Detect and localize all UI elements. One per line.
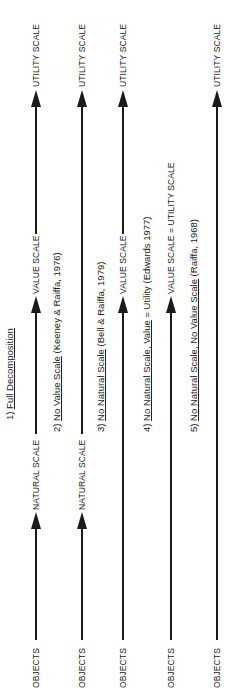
edge-line xyxy=(35,528,37,640)
arrowhead-icon xyxy=(31,296,41,313)
node-value-scale: VALUE SCALE xyxy=(31,235,41,294)
caption-no-value-scale: 2) No Value Scale (Keeney & Raiffa, 1976… xyxy=(51,252,63,432)
caption-title: No Natural Scale, Value xyxy=(141,320,152,421)
caption-number: 4) xyxy=(141,424,152,432)
arrowhead-icon xyxy=(118,90,128,107)
node-objects: OBJECTS xyxy=(77,648,87,688)
edge-line xyxy=(216,106,218,640)
node-utility-scale: UTILITY SCALE xyxy=(31,24,41,87)
caption-number: 3) xyxy=(95,424,106,432)
node-value-utility-scale: VALUE SCALE = UTILITY SCALE xyxy=(166,162,176,294)
edge-line xyxy=(81,528,83,640)
caption-no-natural-scale: 3) No Natural Scale (Bell & Raiffa, 1979… xyxy=(95,262,107,432)
caption-title: No Natural Scale, No Value Scale xyxy=(188,279,199,421)
node-utility-scale: UTILITY SCALE xyxy=(77,24,87,87)
edge-line xyxy=(35,312,37,434)
node-objects: OBJECTS xyxy=(31,648,41,688)
edge-line xyxy=(122,312,124,640)
node-utility-scale: UTILITY SCALE xyxy=(118,24,128,87)
edge-line xyxy=(170,312,172,640)
node-objects: OBJECTS xyxy=(118,648,128,688)
node-utility-scale: UTILITY SCALE xyxy=(212,24,222,87)
caption-reference: (Bell & Raiffa, 1979) xyxy=(95,262,106,349)
arrowhead-icon xyxy=(77,512,87,529)
caption-value-equals-utility: 4) No Natural Scale, Value = Utility (Ed… xyxy=(141,216,153,432)
edge-line xyxy=(122,106,124,234)
caption-number: 5) xyxy=(188,424,199,432)
arrowhead-icon xyxy=(31,512,41,529)
caption-title: Full Decomposition xyxy=(4,328,15,409)
arrowhead-icon xyxy=(118,296,128,313)
node-natural-scale: NATURAL SCALE xyxy=(77,440,87,510)
arrowhead-icon xyxy=(166,296,176,313)
caption-title: No Value Scale xyxy=(51,356,62,421)
edge-line xyxy=(35,106,37,234)
edge-line xyxy=(81,106,83,434)
caption-title: No Natural Scale xyxy=(95,349,106,421)
caption-reference: = Utility (Edwards 1977) xyxy=(141,216,152,320)
caption-reference: (Raiffa, 1968) xyxy=(188,219,199,279)
arrowhead-icon xyxy=(77,90,87,107)
caption-number: 1) xyxy=(4,412,15,420)
arrowhead-icon xyxy=(212,90,222,107)
arrowhead-icon xyxy=(31,90,41,107)
caption-reference: (Keeney & Raiffa, 1976) xyxy=(51,252,62,356)
node-objects: OBJECTS xyxy=(166,648,176,688)
node-objects: OBJECTS xyxy=(212,648,222,688)
caption-number: 2) xyxy=(51,424,62,432)
node-value-scale: VALUE SCALE xyxy=(118,235,128,294)
caption-full-decomposition: 1) Full Decomposition xyxy=(4,328,16,420)
node-natural-scale: NATURAL SCALE xyxy=(31,440,41,510)
caption-no-natural-no-value: 5) No Natural Scale, No Value Scale (Rai… xyxy=(188,219,200,432)
